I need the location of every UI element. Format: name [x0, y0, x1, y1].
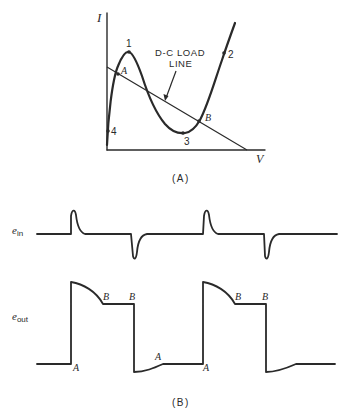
point-b-label: B [205, 112, 211, 123]
eout-marker-b2: B [129, 291, 135, 302]
eout-marker-a1: A [72, 362, 80, 373]
point-a [116, 72, 120, 76]
load-line-arrow-shaft [166, 71, 176, 98]
point-a-label: A [120, 65, 128, 76]
eout-marker-b4: B [262, 291, 268, 302]
eout-marker-b1: B [103, 291, 109, 302]
dc-load-line [107, 67, 247, 150]
caption-b: (B) [172, 397, 190, 408]
waveform-panel: ein eout A B B A A B B (B) [12, 211, 337, 408]
eout-label: eout [12, 310, 29, 324]
point-3-label: 3 [184, 136, 190, 147]
eout-marker-b3: B [235, 291, 241, 302]
point-2-label: 2 [228, 49, 234, 60]
load-line-arrow-head [164, 94, 169, 101]
point-1-label: 1 [126, 38, 132, 49]
point-2 [222, 51, 226, 55]
ein-waveform [37, 211, 337, 259]
load-line-label-1: D-C LOAD [155, 47, 205, 58]
point-3 [181, 131, 185, 135]
diagram-figure: I V D-C LOAD LINE 1 2 3 4 A B (A) ein [0, 0, 348, 418]
iv-characteristic-panel: I V D-C LOAD LINE 1 2 3 4 A B (A) [96, 10, 265, 184]
point-4 [106, 129, 110, 133]
caption-a: (A) [172, 173, 190, 184]
load-line-label-2: LINE [169, 58, 193, 69]
point-b [197, 119, 201, 123]
eout-label-sub: out [17, 315, 29, 324]
eout-marker-a2: A [154, 351, 162, 362]
eout-marker-a3: A [202, 362, 210, 373]
ein-label-sub: in [17, 229, 23, 238]
i-axis-label: I [96, 10, 102, 25]
eout-waveform [37, 282, 335, 372]
point-4-label: 4 [111, 126, 117, 137]
v-axis-label: V [256, 152, 265, 166]
point-1 [127, 50, 131, 54]
ein-label: ein [12, 224, 23, 238]
